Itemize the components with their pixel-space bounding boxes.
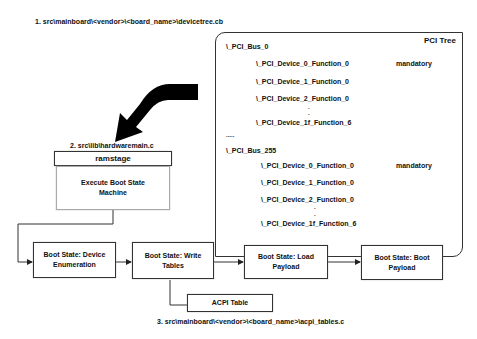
bus0-device-2: \_PCI_Device_2_Function_0: [256, 95, 349, 102]
acpi-tables-path-label: 3. src\mainboard\<vendor>\<board_name>\a…: [157, 318, 344, 325]
bus255-device-1: \_PCI_Device_1_Function_0: [261, 179, 354, 186]
ramstage-header: ramstage: [54, 151, 172, 166]
bus0-device-1: \_PCI_Device_1_Function_0: [256, 78, 349, 85]
ellipsis-dot: ·: [314, 205, 316, 211]
ellipsis-dot: ·: [314, 212, 316, 218]
bus0-mandatory: mandatory: [396, 60, 432, 67]
boot-state-boot-payload: Boot State: Boot Payload: [361, 245, 443, 280]
bus0-device-0: \_PCI_Device_0_Function_0: [256, 60, 349, 67]
big-curved-arrow-icon: [115, 84, 198, 142]
hardwaremain-path-label: 2. src\lib\hardwaremain.c: [70, 142, 154, 149]
pci-bus-255: \_PCI_Bus_255: [226, 147, 276, 154]
execute-boot-state-machine: Execute Boot State Machine: [56, 166, 170, 210]
bus255-device-1f: \_PCI_Device_1f_Function_6: [261, 220, 356, 227]
boot-state-write-tables: Boot State: Write Tables: [132, 242, 214, 279]
bus0-device-1f: \_PCI_Device_1f_Function_6: [256, 119, 351, 126]
devicetree-path-label: 1. src\mainboard\<vendor>\<board_name>\d…: [35, 18, 223, 25]
bus255-mandatory: mandatory: [396, 162, 432, 169]
bus-ellipsis: .....: [226, 132, 234, 138]
ellipsis-dot: ·: [308, 111, 310, 117]
bus255-device-0: \_PCI_Device_0_Function_0: [261, 162, 354, 169]
acpi-table-box: ACPI Table: [187, 294, 273, 312]
boot-state-load-payload: Boot State: Load Payload: [244, 245, 328, 279]
pci-tree-title: PCI Tree: [424, 36, 456, 45]
boot-state-device-enumeration: Boot State: Device Enumeration: [33, 242, 116, 278]
pci-bus-0: \_PCI_Bus_0: [226, 43, 268, 50]
bus255-device-2: \_PCI_Device_2_Function_0: [261, 196, 354, 203]
pci-tree-panel: PCI Tree \_PCI_Bus_0 \_PCI_Device_0_Func…: [215, 32, 463, 257]
